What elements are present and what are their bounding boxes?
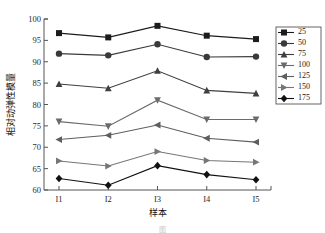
y-tick-label: 100 (28, 14, 41, 24)
legend-item-label: 100 (298, 60, 310, 69)
y-tick-label: 90 (33, 57, 42, 67)
figure-caption: 图 (0, 226, 325, 233)
data-point-marker (56, 50, 62, 56)
data-point-marker (105, 181, 112, 189)
data-point-marker (155, 23, 161, 29)
series-line (59, 100, 256, 126)
y-axis-title: 相对动弹性模量 (5, 73, 16, 136)
series-25 (56, 23, 259, 42)
legend-item-label: 150 (298, 82, 310, 91)
x-axis-ticks: I1I2I3I4I5 (55, 186, 259, 204)
data-point-marker (105, 163, 112, 170)
series-75 (56, 67, 260, 96)
series-175 (56, 162, 260, 189)
x-tick-label: I1 (55, 194, 62, 204)
data-point-marker (204, 33, 210, 39)
data-point-marker (154, 41, 160, 47)
data-point-marker (105, 132, 112, 139)
y-tick-label: 60 (33, 185, 42, 195)
data-point-marker (253, 36, 259, 42)
data-point-marker (252, 139, 259, 146)
series-line (59, 71, 256, 94)
y-axis-ticks: 6065707580859095100 (28, 14, 48, 195)
data-point-marker (203, 171, 210, 179)
legend-item-label: 75 (298, 49, 306, 58)
data-point-marker (154, 162, 161, 170)
data-point-marker (105, 52, 111, 58)
data-point-marker (56, 158, 63, 165)
data-point-marker (204, 54, 210, 60)
legend-item-label: 50 (298, 38, 306, 47)
data-point-marker (154, 67, 161, 74)
x-tick-label: I3 (154, 194, 161, 204)
data-point-marker (253, 176, 260, 184)
chart-figure: 6065707580859095100I1I2I3I4I5样本相对动弹性模量25… (0, 0, 325, 233)
y-tick-label: 75 (33, 121, 42, 131)
x-tick-label: I5 (252, 194, 259, 204)
data-point-marker (56, 30, 62, 36)
data-point-marker (154, 97, 161, 104)
y-tick-label: 80 (33, 100, 42, 110)
data-point-marker (253, 53, 259, 59)
x-axis-title: 样本 (149, 207, 167, 218)
data-point-marker (281, 30, 287, 36)
data-point-marker (56, 175, 63, 183)
data-point-marker (203, 135, 210, 142)
legend-item-label: 125 (298, 71, 310, 80)
line-chart: 6065707580859095100I1I2I3I4I5样本相对动弹性模量25… (0, 0, 325, 233)
data-point-marker (154, 122, 161, 129)
data-point-marker (155, 148, 162, 155)
data-point-marker (55, 136, 62, 143)
data-point-marker (204, 157, 211, 164)
y-tick-label: 70 (33, 142, 42, 152)
y-tick-label: 85 (33, 78, 42, 88)
x-tick-label: I2 (105, 194, 112, 204)
series-125 (55, 122, 259, 146)
legend: 255075100125150175 (276, 27, 321, 104)
x-tick-label: I4 (203, 194, 211, 204)
legend-item-label: 25 (298, 27, 306, 36)
data-point-marker (105, 34, 111, 40)
data-point-marker (281, 40, 287, 46)
data-point-marker (253, 159, 260, 166)
legend-item-label: 175 (298, 93, 310, 102)
series-50 (56, 41, 259, 60)
y-tick-label: 65 (33, 164, 42, 174)
series-line (59, 125, 256, 142)
y-tick-label: 95 (33, 35, 42, 45)
